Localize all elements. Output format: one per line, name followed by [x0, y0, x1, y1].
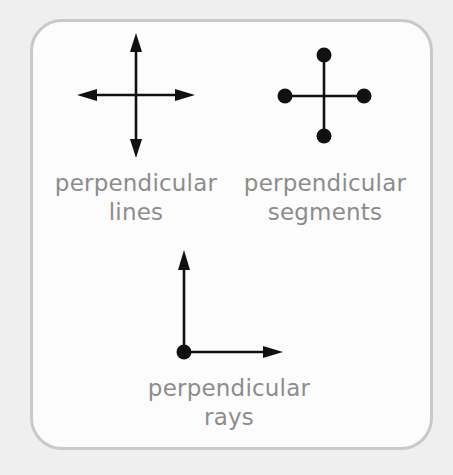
caption-rays-line1: perpendicular: [129, 374, 329, 403]
vertical-ray-icon: [178, 250, 190, 352]
endpoint-dot-icon: [357, 89, 372, 104]
caption-segments-line2: segments: [225, 198, 425, 227]
caption-segments-line1: perpendicular: [225, 169, 425, 198]
perpendicular-segments-figure: [278, 48, 372, 144]
perpendicular-lines-figure: [77, 33, 195, 158]
caption-segments: perpendicular segments: [225, 169, 425, 227]
caption-rays: perpendicular rays: [129, 374, 329, 432]
caption-lines-line1: perpendicular: [36, 169, 236, 198]
perpendicular-rays-figure: [177, 250, 284, 360]
caption-rays-line2: rays: [129, 403, 329, 432]
caption-lines-line2: lines: [36, 198, 236, 227]
horizontal-ray-icon: [184, 346, 283, 358]
endpoint-dot-icon: [317, 129, 332, 144]
ray-origin-dot-icon: [177, 345, 192, 360]
caption-lines: perpendicular lines: [36, 169, 236, 227]
endpoint-dot-icon: [278, 89, 293, 104]
endpoint-dot-icon: [317, 48, 332, 63]
